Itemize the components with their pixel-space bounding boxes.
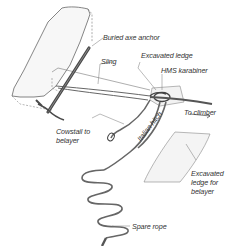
label-cowstail-line2: belayer [56,137,79,145]
label-cowstail-line1: Cowstail to [56,128,90,136]
label-excavated-ledge-belayer-line2: ledge for [191,179,218,187]
label-hms-karabiner: HMS karabiner [161,67,208,75]
label-excavated-ledge-belayer-line3: belayer [191,188,214,196]
label-buried-axe-anchor: Buried axe anchor [103,34,160,42]
label-excavated-ledge: Excavated ledge [141,52,193,60]
label-excavated-ledge-belayer-line1: Excavated [191,170,224,178]
sling [56,86,150,100]
label-sling: Sling [101,58,116,66]
label-spare-rope: Spare rope [132,223,167,231]
label-to-climber: To climber [184,109,216,117]
spare-rope-coil [82,170,128,246]
